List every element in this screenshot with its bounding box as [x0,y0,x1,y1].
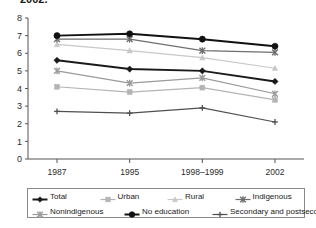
legend-label: Secondary and postsecondary [230,208,316,216]
chart-figure: 2002. 012345678198719951998–19992002 Tot… [0,0,316,228]
y-tick-label-6: 6 [17,48,22,58]
series-indigenous [54,36,278,56]
legend-row-1: TotalUrbanRuralIndigenous [28,189,304,204]
legend-item-total[interactable]: Total [32,191,100,202]
legend-marker-triangle-icon [167,194,183,205]
y-tick-label-4: 4 [17,84,22,94]
legend-swatch [235,191,251,202]
x-tick-label-1: 1995 [120,167,139,177]
legend-item-urban[interactable]: Urban [100,191,168,202]
legend-swatch [32,191,48,202]
marker-square [273,97,278,102]
marker-square [55,84,60,89]
legend-swatch [100,191,116,202]
marker-circle [54,33,60,39]
legend-marker-x-icon [32,209,48,220]
legend-row-2: NonindigenousNo educationSecondary and p… [28,204,304,219]
marker-circle [272,43,278,49]
marker-diamond [54,57,60,63]
y-tick-label-3: 3 [17,101,22,111]
series-nonindigenous [54,68,278,98]
clipped-title-fragment: 2002. [20,0,48,5]
series-secondary-and-postsecondary [54,105,278,125]
legend-swatch [212,206,228,217]
legend-swatch [167,191,183,202]
y-tick-label-2: 2 [17,119,22,129]
y-tick-label-1: 1 [17,137,22,147]
series-rural [54,42,278,71]
plot-area: 012345678198719951998–19992002 [0,6,316,184]
legend-marker-square-icon [100,194,116,205]
legend-label: Total [50,193,67,201]
legend-label: Indigenous [253,193,292,201]
legend-label: Urban [118,193,140,201]
legend-swatch [124,206,140,217]
legend-swatch [32,206,48,217]
legend-marker-circle-icon [124,209,140,220]
marker-circle [199,36,205,42]
x-tick-label-2: 1998–1999 [181,167,224,177]
y-tick-label-0: 0 [17,154,22,164]
legend-label: No education [142,208,189,216]
marker-diamond [272,78,278,84]
marker-square [127,90,132,95]
legend-item-indigenous[interactable]: Indigenous [235,191,304,202]
legend-label: Nonindigenous [50,208,103,216]
y-tick-label-8: 8 [17,13,22,23]
legend-item-nonindigenous[interactable]: Nonindigenous [32,206,124,217]
marker-diamond [37,197,43,203]
marker-circle [127,31,133,37]
y-tick-label-7: 7 [17,31,22,41]
marker-diamond [127,66,133,72]
series-line [57,108,275,122]
legend-marker-plus-icon [212,209,228,220]
legend-item-no-education[interactable]: No education [124,206,212,217]
legend-marker-x-icon [235,194,251,205]
series-line [57,87,275,100]
series-line [57,39,275,52]
marker-square [200,85,205,90]
legend-marker-diamond-icon [32,194,48,205]
legend-item-rural[interactable]: Rural [167,191,235,202]
legend-label: Rural [185,193,204,201]
x-tick-label-0: 1987 [48,167,67,177]
marker-diamond [199,68,205,74]
chart-legend: TotalUrbanRuralIndigenous NonindigenousN… [27,188,305,218]
line-chart-svg: 012345678198719951998–19992002 [0,6,316,184]
marker-square [105,197,110,202]
y-tick-label-5: 5 [17,66,22,76]
x-tick-label-3: 2002 [266,167,285,177]
marker-circle [129,212,135,218]
